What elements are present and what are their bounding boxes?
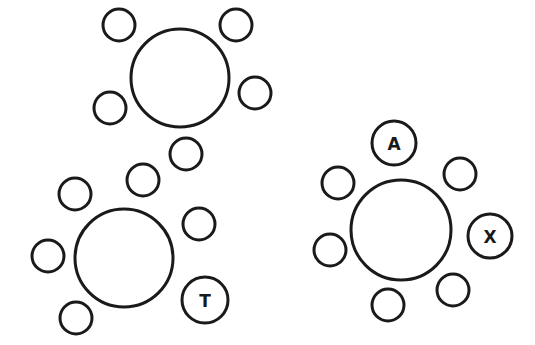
seat-circle bbox=[127, 164, 159, 196]
seat-circle bbox=[372, 289, 404, 321]
seat-circle bbox=[183, 208, 215, 240]
table-right: AX bbox=[314, 121, 512, 321]
seat-circle bbox=[94, 92, 126, 124]
seat bbox=[183, 208, 215, 240]
table-circle bbox=[131, 29, 229, 127]
seat bbox=[170, 138, 202, 170]
seat-a: A bbox=[372, 121, 416, 165]
seat bbox=[322, 167, 354, 199]
table-bottom-left: T bbox=[32, 164, 228, 334]
seating-diagram: TAX bbox=[0, 0, 535, 345]
seat bbox=[127, 164, 159, 196]
seat-circle bbox=[322, 167, 354, 199]
seat-circle bbox=[239, 77, 271, 109]
seat-circle bbox=[32, 240, 64, 272]
seat bbox=[220, 9, 252, 41]
seat bbox=[444, 158, 476, 190]
seat bbox=[239, 77, 271, 109]
seat bbox=[103, 9, 135, 41]
seat-circle bbox=[314, 234, 346, 266]
seat bbox=[94, 92, 126, 124]
seat-circle bbox=[59, 178, 91, 210]
seat bbox=[314, 234, 346, 266]
seat-circle bbox=[170, 138, 202, 170]
seat-circle bbox=[444, 158, 476, 190]
seat-circle bbox=[437, 274, 469, 306]
seat-label: X bbox=[483, 227, 496, 247]
table-circle bbox=[75, 209, 173, 307]
seat-label: T bbox=[199, 291, 211, 311]
seat-label: A bbox=[387, 134, 401, 154]
seat bbox=[59, 178, 91, 210]
seat-t: T bbox=[182, 277, 228, 323]
seat bbox=[437, 274, 469, 306]
seat-circle bbox=[60, 302, 92, 334]
table-top bbox=[94, 9, 271, 170]
seat-x: X bbox=[468, 214, 512, 258]
seat bbox=[32, 240, 64, 272]
seat bbox=[60, 302, 92, 334]
seat bbox=[372, 289, 404, 321]
seat-circle bbox=[220, 9, 252, 41]
seat-circle bbox=[103, 9, 135, 41]
table-circle bbox=[351, 180, 451, 280]
